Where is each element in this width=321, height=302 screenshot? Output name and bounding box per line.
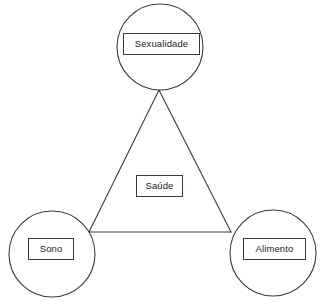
node-label-alimento[interactable]: Alimento xyxy=(243,238,306,260)
node-label-saude[interactable]: Saúde xyxy=(136,175,183,197)
edge-sexualidade-alimento xyxy=(159,90,231,232)
triangle-edges xyxy=(89,90,231,232)
node-label-sono[interactable]: Sono xyxy=(28,238,74,260)
node-label-sexualidade[interactable]: Sexualidade xyxy=(123,33,200,55)
edge-sexualidade-sono xyxy=(89,90,159,232)
diagram-canvas: Sexualidade Saúde Sono Alimento xyxy=(0,0,321,302)
